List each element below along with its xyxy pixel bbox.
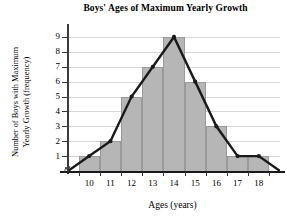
x-tick-label-17: 17 (228, 178, 248, 188)
polygon-point-age-18 (257, 154, 261, 158)
x-tick-18.5 (269, 172, 270, 176)
y-tick-label-1: 1 (46, 152, 60, 161)
x-tick-9.5 (79, 172, 80, 176)
polygon-point-age-16 (214, 124, 218, 128)
polygon-point-age-17 (236, 154, 240, 158)
y-tick-label-2: 2 (46, 137, 60, 146)
x-tick-15.5 (206, 172, 207, 176)
x-tick-label-16: 16 (206, 178, 226, 188)
y-tick-2 (62, 141, 68, 142)
x-tick-label-13: 13 (143, 178, 163, 188)
polygon-point-age-11 (108, 139, 112, 143)
x-tick-label-15: 15 (185, 178, 205, 188)
x-tick-label-11: 11 (100, 178, 120, 188)
x-tick-11.5 (121, 172, 122, 176)
y-tick-label-8: 8 (46, 47, 60, 56)
x-tick-10.5 (100, 172, 101, 176)
y-tick-5 (62, 97, 68, 98)
y-axis-label-line1: Number of Boys with Maximum (11, 22, 22, 182)
y-tick-9 (62, 37, 68, 38)
y-tick-label-6: 6 (46, 77, 60, 86)
y-tick-7 (62, 67, 68, 68)
plot-area (68, 28, 280, 171)
x-tick-label-10: 10 (79, 178, 99, 188)
y-tick-label-7: 7 (46, 62, 60, 71)
polygon-point-age-14 (172, 35, 176, 39)
x-tick-16.5 (227, 172, 228, 176)
x-axis-label: Ages (years) (60, 200, 285, 210)
y-axis-label: Number of Boys with Maximum Yearly Growt… (11, 22, 39, 182)
y-tick-4 (62, 111, 68, 112)
axis-break-icon (63, 165, 72, 174)
chart-figure: Boys' Ages of Maximum Yearly Growth Numb… (0, 0, 287, 221)
frequency-polygon-line (68, 37, 280, 171)
x-tick-label-12: 12 (122, 178, 142, 188)
x-tick-14.5 (185, 172, 186, 176)
x-axis-line (60, 171, 285, 173)
polygon-point-age-15 (193, 80, 197, 84)
y-tick-label-5: 5 (46, 92, 60, 101)
y-tick-label-3: 3 (46, 122, 60, 131)
polygon-point-age-12 (130, 94, 134, 98)
x-tick-12.5 (142, 172, 143, 176)
x-tick-13.5 (163, 172, 164, 176)
y-axis-label-line2: Yearly Growth (frequency) (22, 22, 33, 182)
polygon-point-age-13 (151, 65, 155, 69)
y-tick-label-4: 4 (46, 107, 60, 116)
polygon-point-age-10 (87, 154, 91, 158)
frequency-polygon (68, 28, 280, 171)
chart-title: Boys' Ages of Maximum Yearly Growth (44, 3, 287, 14)
y-tick-6 (62, 82, 68, 83)
y-axis-line (67, 24, 69, 174)
x-tick-label-14: 14 (164, 178, 184, 188)
y-tick-8 (62, 52, 68, 53)
y-tick-3 (62, 126, 68, 127)
x-tick-label-18: 18 (249, 178, 269, 188)
y-tick-label-9: 9 (46, 32, 60, 41)
x-tick-17.5 (248, 172, 249, 176)
y-tick-1 (62, 156, 68, 157)
